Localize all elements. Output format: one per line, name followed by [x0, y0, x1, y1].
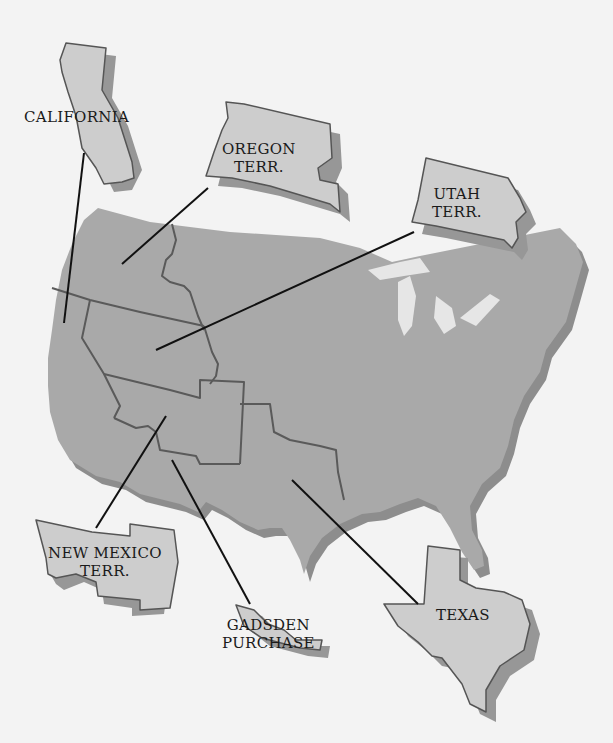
new-mexico-label-line2: TERR. [48, 562, 162, 580]
gadsden-purchase-label: GADSDEN PURCHASE [222, 616, 315, 652]
utah-label-line2: TERR. [432, 203, 482, 221]
oregon-territory-label: OREGON TERR. [222, 140, 296, 176]
gadsden-label-line2: PURCHASE [222, 634, 315, 652]
texas-label: TEXAS [436, 606, 490, 624]
california-label: CALIFORNIA [24, 108, 129, 126]
oregon-label-line1: OREGON [222, 140, 296, 158]
gadsden-label-line1: GADSDEN [222, 616, 315, 634]
texas-label-text: TEXAS [436, 606, 490, 624]
oregon-label-line2: TERR. [222, 158, 296, 176]
new-mexico-label-line1: NEW MEXICO [48, 544, 162, 562]
utah-label-line1: UTAH [432, 185, 482, 203]
new-mexico-territory-label: NEW MEXICO TERR. [48, 544, 162, 580]
utah-territory-label: UTAH TERR. [432, 185, 482, 221]
california-label-text: CALIFORNIA [24, 108, 129, 126]
